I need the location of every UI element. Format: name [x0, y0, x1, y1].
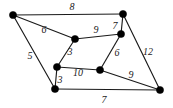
edge-weight-label-ag: 5	[28, 51, 33, 61]
edge-weight-label-ce: 3	[68, 47, 73, 57]
edge-weight-label-fh: 9	[129, 70, 134, 80]
edge-weight-label-gh: 7	[102, 95, 107, 105]
edge-weight-label-ef: 10	[73, 68, 83, 78]
edges-group	[13, 14, 160, 90]
graph-vertex-g	[51, 85, 58, 92]
graph-vertex-f	[96, 66, 103, 73]
edge-weight-label-eg: 3	[58, 75, 63, 85]
graph-vertex-h	[156, 86, 163, 93]
graph-vertex-b	[119, 10, 126, 17]
graph-edge-gh	[55, 89, 160, 90]
edge-weight-label-ab: 8	[70, 2, 75, 12]
graph-edge-ag	[13, 15, 55, 89]
edge-weight-label-bd: 7	[113, 21, 118, 31]
graph-vertex-c	[71, 35, 78, 42]
graph-vertex-d	[117, 30, 124, 37]
edge-weight-label-df: 6	[115, 48, 120, 58]
weighted-graph-figure: 86597123610397	[0, 0, 173, 108]
graph-vertex-e	[53, 63, 60, 70]
edge-weight-label-cd: 9	[94, 25, 99, 35]
edge-weight-label-bh: 12	[143, 47, 153, 57]
graph-vertex-a	[9, 11, 16, 18]
edge-weight-label-ac: 6	[42, 25, 47, 35]
graph-edge-ab	[13, 14, 123, 15]
